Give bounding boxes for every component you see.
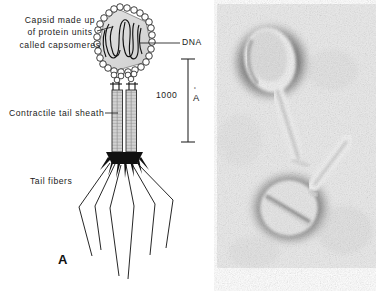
label-capsid-line2: of protein units: [8, 26, 112, 38]
figure-root: Capsid made up of protein units called c…: [0, 0, 376, 291]
label-capsid-line1: Capsid made up: [8, 14, 112, 26]
panel-b-micrograph: B: [214, 0, 376, 291]
label-capsid: Capsid made up of protein units called c…: [8, 14, 112, 51]
label-dna: DNA: [182, 36, 202, 48]
label-capsid-line3: called capsomeres: [8, 39, 112, 51]
label-contractile-tail-sheath: Contractile tail sheath: [9, 107, 104, 119]
tail-fibers: [79, 163, 173, 279]
scale-bar-unit: ˚ A: [193, 88, 199, 104]
label-tail-fibers: Tail fibers: [30, 175, 72, 187]
panel-a-diagram: Capsid made up of protein units called c…: [0, 0, 214, 291]
scale-bar-value: 1000: [156, 89, 177, 101]
base-plate: [100, 152, 149, 178]
panel-a-letter: A: [58, 252, 67, 267]
angstrom-letter: A: [193, 92, 199, 103]
contractile-tail-sheath: [112, 90, 137, 152]
micrograph-svg: [214, 0, 376, 291]
